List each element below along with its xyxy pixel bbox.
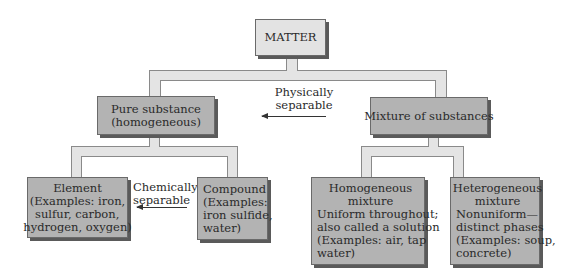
connector-joint [362,147,463,156]
node-label-line: concrete) [456,247,511,260]
node-label-line: hydrogen, oxygen) [23,221,132,234]
connector-joint [429,134,438,156]
node-mixture-of-substances: Mixture of substances [370,97,488,135]
annotation-physically-separable: Physically separable [262,86,346,112]
node-label-line: (Examples: [203,196,268,209]
node-matter: MATTER [255,19,326,56]
node-homogeneous-mixture: Homogeneous mixture Uniform throughout; … [311,177,425,265]
node-element: Element (Examples: iron, sulfur, carbon,… [27,177,128,238]
arrow-left-icon [137,207,187,208]
node-label-line: (Examples: iron, [30,195,126,208]
connector-joint [150,134,159,156]
node-label-line: Mixture of substances [364,110,493,123]
connector-joint [362,147,371,179]
connector-joint [228,147,237,179]
node-label-line: water) [203,222,241,235]
connector-joint [150,71,446,80]
connector-joint [150,71,160,97]
node-label-line: Pure substance [111,103,201,116]
node-label-line: water) [317,247,355,260]
connector-joint [287,56,297,80]
connector-joint [72,147,81,179]
node-label-line: iron sulfide, [203,209,273,222]
connector-joint [454,147,463,179]
node-heterogeneous-mixture: Heterogeneous mixture Nonuniform— distin… [450,177,540,265]
annotation-line: separable [262,99,346,112]
node-compound: Compound (Examples: iron sulfide, water) [197,177,268,240]
node-matter-label: MATTER [264,31,316,44]
node-label-line: (homogeneous) [111,116,201,129]
node-label-line: sulfur, carbon, [28,208,119,221]
node-label-line: Element [53,182,102,195]
connector-joint [436,71,446,99]
node-pure-substance: Pure substance (homogeneous) [97,96,215,135]
node-label-line: Compound [203,183,266,196]
arrow-left-icon [262,116,326,117]
